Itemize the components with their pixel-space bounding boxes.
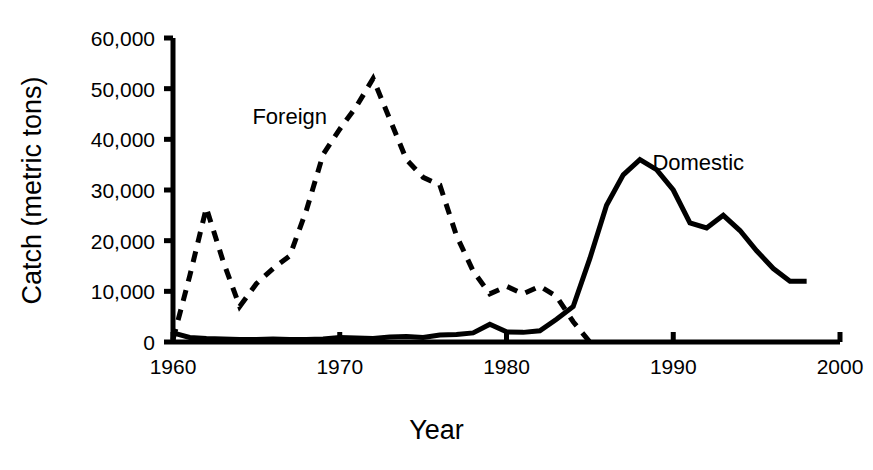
series-annotation-foreign: Foreign xyxy=(252,104,327,129)
chart-series-annotations: ForeignDomestic xyxy=(252,104,744,175)
x-axis-tick-label: 1990 xyxy=(650,355,697,378)
y-axis-tick-label: 20,000 xyxy=(91,230,155,253)
y-axis-tick-label: 10,000 xyxy=(91,280,155,303)
y-axis-tick-label: 30,000 xyxy=(91,179,155,202)
y-axis-tick-label: 50,000 xyxy=(91,78,155,101)
y-axis-tick-label: 60,000 xyxy=(91,27,155,50)
x-axis-tick-label: 1960 xyxy=(150,355,197,378)
y-axis-tick-label: 0 xyxy=(143,331,155,354)
chart-axes xyxy=(164,38,840,342)
x-axis-title: Year xyxy=(0,415,873,446)
series-line-domestic xyxy=(173,160,807,340)
x-axis-tick-label: 1970 xyxy=(316,355,363,378)
x-axis-tick-label: 2000 xyxy=(817,355,864,378)
series-annotation-domestic: Domestic xyxy=(652,150,744,175)
y-axis-tick-label: 40,000 xyxy=(91,128,155,151)
x-axis-tick-labels: 19601970198019902000 xyxy=(150,355,864,378)
y-axis-tick-labels: 010,00020,00030,00040,00050,00060,000 xyxy=(91,27,155,354)
y-axis-title: Catch (metric tons) xyxy=(17,41,48,341)
chart-plot-area: 010,00020,00030,00040,00050,00060,000 19… xyxy=(0,0,873,470)
x-axis-tick-label: 1980 xyxy=(483,355,530,378)
chart-figure: 010,00020,00030,00040,00050,00060,000 19… xyxy=(0,0,873,470)
series-line-foreign xyxy=(173,79,590,342)
